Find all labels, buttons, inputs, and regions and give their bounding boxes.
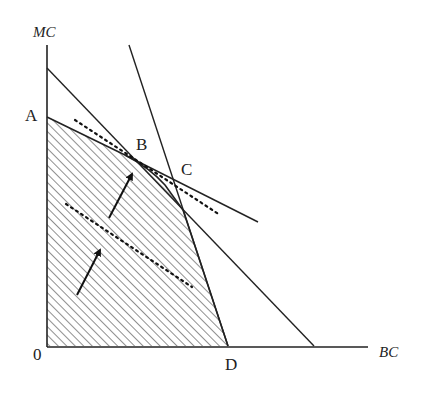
- point-a-label: A: [25, 107, 37, 124]
- ppf-diagram: [0, 0, 432, 395]
- point-d-label: D: [225, 356, 237, 373]
- x-axis-label: BC: [379, 345, 398, 360]
- origin-label: 0: [33, 346, 42, 363]
- point-b-label: B: [136, 136, 147, 153]
- y-axis-label: MC: [33, 25, 56, 40]
- point-c-label: C: [181, 161, 192, 178]
